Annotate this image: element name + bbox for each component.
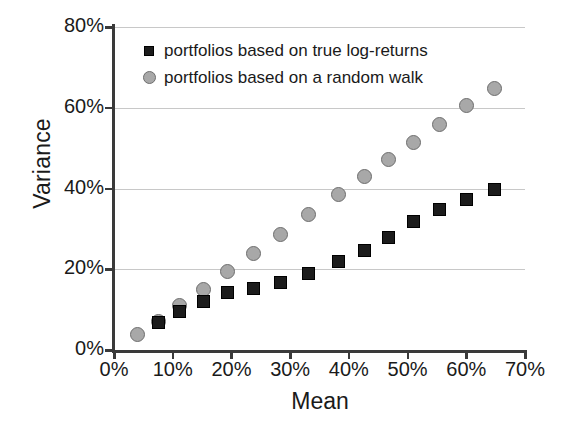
x-axis-tick-mark <box>172 350 175 359</box>
x-axis-tick-mark <box>230 350 233 359</box>
data-point-square <box>274 276 287 289</box>
legend-item-random-walk[interactable]: portfolios based on a random walk <box>136 64 466 91</box>
x-axis-tick-mark <box>348 350 351 359</box>
legend-square-marker-icon <box>136 46 162 56</box>
data-point-square <box>173 305 186 318</box>
y-axis-tick-label: 40% <box>4 176 104 199</box>
data-point-square <box>152 316 165 329</box>
x-axis-title: Mean <box>114 388 526 415</box>
data-point-circle <box>432 117 447 132</box>
x-axis-tick-mark <box>289 350 292 359</box>
data-point-circle <box>273 227 288 242</box>
data-point-circle <box>381 152 396 167</box>
x-axis-tick-label: 70% <box>480 358 570 381</box>
y-axis-tick-mark <box>105 268 115 271</box>
data-point-square <box>433 203 446 216</box>
y-axis-tick-label: 60% <box>4 95 104 118</box>
legend-item-true-log-returns[interactable]: portfolios based on true log-returns <box>136 37 466 64</box>
chart-legend: portfolios based on true log-returns por… <box>136 37 466 91</box>
data-point-circle <box>487 81 502 96</box>
data-point-square <box>197 295 210 308</box>
data-point-circle <box>246 246 261 261</box>
gridline-horizontal <box>114 189 525 190</box>
gridline-horizontal <box>114 269 525 270</box>
x-axis-tick-mark <box>524 350 527 359</box>
x-axis-tick-mark <box>407 350 410 359</box>
x-axis-tick-mark <box>465 350 468 359</box>
legend-circle-marker-icon <box>136 71 162 84</box>
data-point-square <box>332 255 345 268</box>
data-point-circle <box>301 207 316 222</box>
legend-label: portfolios based on true log-returns <box>162 41 428 61</box>
gridline-horizontal <box>114 27 525 28</box>
data-point-square <box>382 231 395 244</box>
data-point-square <box>488 183 501 196</box>
scatter-chart: Variance 0%20%40%60%80% 0%10%20%30%40%50… <box>0 0 572 428</box>
data-point-circle <box>459 98 474 113</box>
data-point-square <box>247 282 260 295</box>
legend-label: portfolios based on a random walk <box>162 68 423 88</box>
x-axis-tick-mark <box>113 350 116 359</box>
data-point-circle <box>357 169 372 184</box>
data-point-square <box>358 244 371 257</box>
y-axis-tick-label: 0% <box>4 337 104 360</box>
data-point-circle <box>130 327 145 342</box>
data-point-circle <box>220 264 235 279</box>
y-axis-tick-label: 80% <box>4 14 104 37</box>
y-axis-tick-mark <box>105 188 115 191</box>
data-point-square <box>407 215 420 228</box>
data-point-square <box>221 286 234 299</box>
data-point-square <box>302 267 315 280</box>
x-axis-tick-labels: 0%10%20%30%40%50%60%70% <box>0 358 572 388</box>
y-axis-tick-label: 20% <box>4 256 104 279</box>
y-axis-tick-mark <box>105 107 115 110</box>
data-point-circle <box>406 135 421 150</box>
data-point-square <box>460 193 473 206</box>
y-axis-tick-mark <box>105 26 115 29</box>
data-point-circle <box>331 187 346 202</box>
